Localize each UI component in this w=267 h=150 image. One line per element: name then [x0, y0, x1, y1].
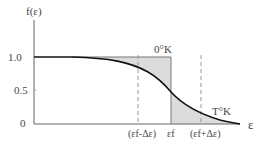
y-tick-0-5: 0.5	[14, 85, 28, 96]
x-tick-ef-plus: (εf+Δε)	[190, 128, 220, 139]
fermi-curve	[34, 57, 240, 124]
y-tick-1: 1.0	[8, 52, 22, 63]
y-axis-label: f(ε)	[26, 6, 42, 17]
x-axis-label: ε	[248, 119, 253, 130]
zero-k-label: 0°K	[154, 44, 172, 55]
x-tick-ef: εf	[167, 128, 175, 139]
x-tick-ef-minus: (εf-Δε)	[128, 128, 156, 139]
t-k-label: T°K	[212, 106, 231, 117]
y-tick-0: 0	[20, 118, 26, 129]
